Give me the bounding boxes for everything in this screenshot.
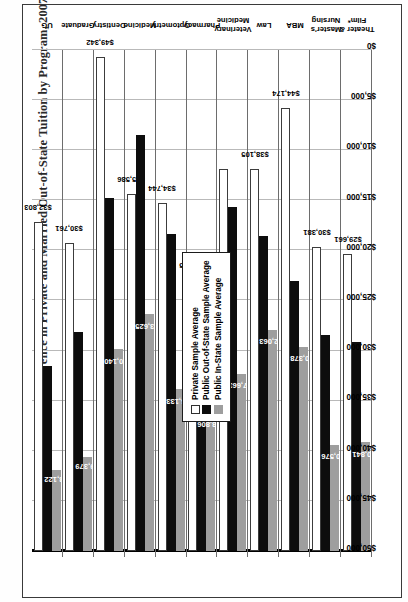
value-axis-tick: $40,000 — [346, 443, 376, 452]
legend-item[interactable]: Public Out-of-State Sample Average — [202, 260, 211, 414]
bar-line — [167, 50, 176, 551]
bar-instate: $23,625 — [145, 314, 154, 551]
bar-line — [136, 50, 145, 551]
bar-outstate — [105, 198, 114, 551]
bar-line — [105, 50, 114, 551]
chart-rotation-container: $32,803$8,122$30,761$9,379$49,342$20,140… — [32, 4, 408, 598]
value-axis-tick: $50,000 — [346, 543, 376, 552]
bar-outstate — [74, 332, 83, 551]
bar-group: $38,105$22,063 — [248, 50, 279, 551]
chart-page: Difference in Private and Married Out-of… — [0, 0, 408, 602]
bar-private: $30,381 — [312, 247, 321, 551]
bar-group: $44,174$20,378 — [279, 50, 310, 551]
bar-instate: $20,140 — [114, 349, 123, 551]
chart-legend: Private Sample AveragePublic Out-of-Stat… — [182, 252, 231, 422]
bar-line: $10,576 — [330, 50, 339, 551]
bar-instate: $20,378 — [299, 347, 308, 551]
bar-line: $22,063 — [268, 50, 277, 551]
bar-group: $32,803$8,122 — [32, 50, 63, 551]
value-axis-tick: $30,000 — [346, 342, 376, 351]
bar-outstate — [321, 335, 330, 551]
bar-line: $49,342 — [96, 50, 105, 551]
category-axis-labels: UGGraduateDentistryMedicineOptometryPhar… — [32, 4, 372, 50]
bar-instate: $8,122 — [52, 470, 61, 551]
value-axis-tick: $45,000 — [346, 493, 376, 502]
bar-line — [74, 50, 83, 551]
page-frame: Difference in Private and Married Out-of… — [22, 4, 402, 598]
bar-outstate — [167, 234, 176, 551]
bar-outstate — [290, 281, 299, 551]
bar-line — [290, 50, 299, 551]
value-axis-tick: $0 — [367, 41, 376, 50]
bar-line: $44,174 — [281, 50, 290, 551]
bar-group: $30,761$9,379 — [63, 50, 94, 551]
value-axis-tick: $25,000 — [346, 292, 376, 301]
legend-label: Private Sample Average — [191, 307, 200, 400]
bar-line: $20,140 — [114, 50, 123, 551]
bar-line — [321, 50, 330, 551]
bar-instate: $10,576 — [330, 445, 339, 551]
bar-line: $30,381 — [312, 50, 321, 551]
value-axis-tick: $15,000 — [346, 192, 376, 201]
bar-line: $32,803 — [34, 50, 43, 551]
value-axis-tick: $20,000 — [346, 242, 376, 251]
bar-line: $17,663 — [237, 50, 246, 551]
bar-outstate — [43, 366, 52, 551]
bar-instate: $13,806 — [206, 413, 215, 551]
category-label: Theater & Film* — [335, 16, 379, 34]
bar-group: $35,586$23,625 — [125, 50, 156, 551]
legend-item[interactable]: Public In-State Sample Average — [214, 260, 223, 414]
value-axis-tick: $10,000 — [346, 141, 376, 150]
bar-group: $30,381$10,576 — [310, 50, 341, 551]
bar-instate: $9,379 — [83, 457, 92, 551]
bar-line: $38,105 — [250, 50, 259, 551]
bar-line: $23,625 — [145, 50, 154, 551]
bar-line: $30,761 — [65, 50, 74, 551]
legend-swatch-icon — [214, 405, 223, 414]
bar-line: $9,379 — [83, 50, 92, 551]
bar-line: $34,744 — [158, 50, 167, 551]
bar-private: $30,761 — [65, 243, 74, 551]
legend-label: Public Out-of-State Sample Average — [202, 260, 211, 400]
bar-private: $49,342 — [96, 57, 105, 551]
legend-swatch-icon — [202, 405, 211, 414]
legend-label: Public In-State Sample Average — [214, 278, 223, 400]
bar-line: $35,586 — [127, 50, 136, 551]
bar-group: $49,342$20,140 — [94, 50, 125, 551]
legend-item[interactable]: Private Sample Average — [191, 260, 200, 414]
legend-swatch-icon — [191, 405, 200, 414]
bar-private: $32,803 — [34, 222, 43, 551]
bar-line: $20,378 — [299, 50, 308, 551]
value-axis-labels — [32, 552, 372, 598]
bar-instate: $22,063 — [268, 330, 277, 551]
bar-private: $44,174 — [281, 108, 290, 551]
value-axis-tick: $5,000 — [351, 91, 376, 100]
bar-private: $34,744 — [158, 203, 167, 551]
bar-outstate — [136, 135, 145, 551]
bar-line — [259, 50, 268, 551]
bar-instate: $17,663 — [237, 374, 246, 551]
bar-private: $38,105 — [250, 169, 259, 551]
value-axis-tick: $35,000 — [346, 392, 376, 401]
bar-line: $8,122 — [52, 50, 61, 551]
bar-outstate — [259, 236, 268, 551]
plot-area-wrapper: $32,803$8,122$30,761$9,379$49,342$20,140… — [32, 4, 408, 598]
category-separator — [371, 50, 372, 557]
bar-private: $35,586 — [127, 194, 136, 551]
